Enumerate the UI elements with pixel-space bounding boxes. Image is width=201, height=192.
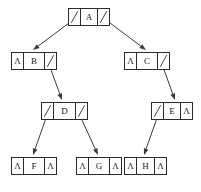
edge-E-to-H <box>144 118 157 155</box>
tree-diagram-canvas: AΛBΛCDEΛΛFΛΛGΛΛHΛ <box>0 0 201 192</box>
node-F-left-pointer-cell: Λ <box>12 158 24 174</box>
node-A-left-pointer-cell <box>69 9 81 25</box>
node-H-right-pointer-cell: Λ <box>154 158 166 174</box>
node-F-right-pointer-cell: Λ <box>44 158 56 174</box>
edge-A-to-B <box>33 20 73 50</box>
node-C-data-cell: C <box>137 53 157 69</box>
node-D-right-pointer-cell <box>75 103 87 119</box>
null-pointer-glyph: Λ <box>79 162 86 171</box>
pointer-slash-icon <box>98 9 109 25</box>
node-F-data-cell: F <box>24 158 44 174</box>
node-G-left-pointer-cell: Λ <box>77 158 89 174</box>
tree-node-C[interactable]: ΛC <box>124 52 170 70</box>
node-C-left-pointer-cell: Λ <box>125 53 137 69</box>
null-pointer-glyph: Λ <box>47 162 54 171</box>
tree-node-B[interactable]: ΛB <box>11 52 57 70</box>
pointer-slash-icon <box>76 103 87 119</box>
node-H-data-cell: H <box>137 158 154 174</box>
null-pointer-glyph: Λ <box>127 57 134 66</box>
edge-B-to-D <box>50 67 62 100</box>
edge-D-to-G <box>81 118 98 155</box>
node-D-data-cell: D <box>54 103 75 119</box>
tree-node-F[interactable]: ΛFΛ <box>11 157 57 175</box>
pointer-slash-icon <box>69 9 80 25</box>
node-E-data-cell: E <box>164 103 180 119</box>
node-A-right-pointer-cell <box>97 9 109 25</box>
node-G-right-pointer-cell: Λ <box>109 158 121 174</box>
node-B-left-pointer-cell: Λ <box>12 53 24 69</box>
null-pointer-glyph: Λ <box>14 162 21 171</box>
null-pointer-glyph: Λ <box>14 57 21 66</box>
pointer-slash-icon <box>152 103 163 119</box>
tree-node-E[interactable]: EΛ <box>151 102 193 120</box>
node-B-right-pointer-cell <box>44 53 56 69</box>
null-pointer-glyph: Λ <box>157 162 164 171</box>
node-G-data-cell: G <box>89 158 109 174</box>
tree-node-D[interactable]: D <box>41 102 88 120</box>
node-B-data-cell: B <box>24 53 44 69</box>
edge-A-to-C <box>106 20 146 50</box>
null-pointer-glyph: Λ <box>112 162 119 171</box>
node-C-right-pointer-cell <box>157 53 169 69</box>
null-pointer-glyph: Λ <box>127 162 134 171</box>
node-E-right-pointer-cell: Λ <box>180 103 192 119</box>
node-E-left-pointer-cell <box>152 103 164 119</box>
pointer-slash-icon <box>158 53 169 69</box>
node-D-left-pointer-cell <box>42 103 54 119</box>
pointer-slash-icon <box>45 53 56 69</box>
edge-D-to-F <box>33 118 46 155</box>
pointer-slash-icon <box>42 103 53 119</box>
tree-node-H[interactable]: ΛHΛ <box>124 157 167 175</box>
node-H-left-pointer-cell: Λ <box>125 158 137 174</box>
edge-C-to-E <box>163 67 175 100</box>
node-A-data-cell: A <box>81 9 97 25</box>
tree-node-A[interactable]: A <box>68 8 110 26</box>
tree-node-G[interactable]: ΛGΛ <box>76 157 122 175</box>
null-pointer-glyph: Λ <box>183 107 190 116</box>
